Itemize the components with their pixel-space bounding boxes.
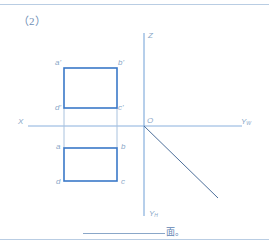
vertex-a-prime-label: a'	[55, 59, 61, 67]
yw-axis-label: YW	[241, 118, 251, 126]
vertex-c-label: c	[121, 178, 125, 186]
vertex-d-label: d	[56, 178, 60, 186]
vertex-c-prime-label: c'	[118, 104, 124, 112]
yh-axis-label: YH	[149, 210, 158, 218]
origin-label: O	[147, 117, 153, 125]
z-axis-label: Z	[148, 32, 153, 40]
vertex-b-prime-label: b'	[118, 59, 124, 67]
vertex-d-prime-label: d'	[55, 104, 61, 112]
diagonal-line	[144, 126, 218, 198]
answer-blank[interactable]	[83, 233, 165, 234]
projection-diagram	[0, 0, 269, 244]
front-view-rect	[64, 68, 117, 108]
answer-suffix: 面。	[166, 225, 184, 238]
vertex-b-label: b	[121, 143, 125, 151]
top-view-rect	[64, 148, 117, 181]
x-axis-label: X	[18, 118, 23, 126]
vertex-a-label: a	[56, 143, 60, 151]
